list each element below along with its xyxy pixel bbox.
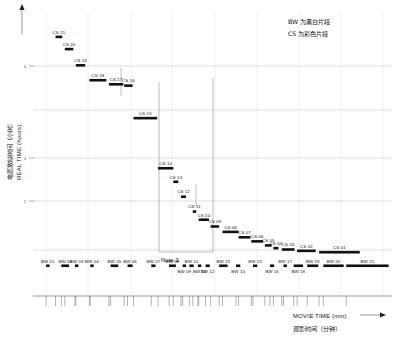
segment-marker: CS 03 xyxy=(282,242,295,251)
segment-bar xyxy=(222,231,238,234)
segment-label: BW 10 xyxy=(185,259,199,264)
segment-bar xyxy=(346,264,388,267)
segment-bar xyxy=(128,264,133,267)
segment-label: BW 14 xyxy=(231,269,245,274)
segment-label: CS 19 xyxy=(74,58,87,63)
segment-bar xyxy=(89,79,106,82)
segment-label: BW 09 xyxy=(177,269,191,274)
segment-marker: CS 18 xyxy=(89,73,106,82)
segment-bar xyxy=(76,64,85,67)
segment-label: CS 18 xyxy=(92,73,105,78)
segment-label: BW 16 xyxy=(265,269,279,274)
segment-bar xyxy=(90,264,93,267)
segment-label: CS 07 xyxy=(238,230,251,235)
legend-item-bw: BW 为黑白片段 xyxy=(288,18,330,26)
y-axis-label-en: REAL TIME (hours) xyxy=(16,125,22,180)
y-tick-label: 4 xyxy=(24,65,26,69)
note3-label: Note 3 xyxy=(161,257,179,263)
segment-marker: CS 14 xyxy=(158,161,173,170)
segment-bar xyxy=(239,236,251,239)
x-axis-label-cn: 观影时间（分钟） xyxy=(293,325,341,333)
segment-bar xyxy=(151,264,155,267)
segment-label: CS 20 xyxy=(63,42,76,47)
segment-label: BW 15 xyxy=(248,259,262,264)
segment-label: BW 05 xyxy=(108,259,122,264)
segment-marker: CS 08 xyxy=(222,225,238,234)
segment-bar xyxy=(61,264,69,267)
segment-bar xyxy=(206,264,210,267)
segment-bar xyxy=(181,195,186,198)
chart-background xyxy=(0,0,399,343)
segment-bar xyxy=(270,264,274,267)
segment-label: CS 04 xyxy=(270,241,283,246)
segment-label: CS 09 xyxy=(208,219,221,224)
movie-timeline-chart: 4 3 2 REAL TIME (hours) 电影放映时间（小时） BW 为黑… xyxy=(0,0,399,343)
segment-label: CS 03 xyxy=(282,242,295,247)
segment-label: BW 20 xyxy=(327,259,341,264)
segment-marker: CS 07 xyxy=(238,230,251,239)
segment-bar xyxy=(56,36,63,39)
segment-bar xyxy=(273,247,278,250)
segment-bar xyxy=(189,264,193,267)
segment-label: CS 21 xyxy=(53,30,66,35)
segment-bar xyxy=(198,264,201,267)
segment-label: CS 17 xyxy=(110,77,123,82)
segment-label: BW 13 xyxy=(216,259,230,264)
segment-bar xyxy=(319,251,360,254)
segment-label: CS 02 xyxy=(300,244,313,249)
x-axis-label-en: MOVIE TIME (min) xyxy=(293,313,347,319)
segment-label: BW 03 xyxy=(70,259,84,264)
segment-bar xyxy=(111,264,119,267)
segment-label: CS 11 xyxy=(188,204,201,209)
segment-bar xyxy=(323,264,343,267)
segment-label: BW 01 xyxy=(41,259,55,264)
y-tick-label: 2 xyxy=(24,200,26,204)
segment-bar xyxy=(158,167,173,170)
segment-label: CS 12 xyxy=(177,189,190,194)
segment-label: BW 04 xyxy=(85,259,99,264)
segment-bar xyxy=(253,264,257,267)
segment-bar xyxy=(282,248,295,251)
segment-label: BW 18 xyxy=(291,269,305,274)
legend-item-cs: CS 为彩色片段 xyxy=(288,30,328,38)
segment-bar xyxy=(236,264,240,267)
y-tick-label: 3 xyxy=(24,157,26,161)
segment-label: CS 14 xyxy=(159,161,172,166)
segment-label: CS 15 xyxy=(139,111,152,116)
segment-label: BW 21 xyxy=(361,259,375,264)
segment-bar xyxy=(133,117,157,120)
segment-bar xyxy=(124,84,132,87)
segment-label: CS 13 xyxy=(170,175,183,180)
segment-bar xyxy=(169,264,176,267)
segment-label: BW 17 xyxy=(278,259,292,264)
segment-bar xyxy=(284,264,287,267)
segment-label: CS 01 xyxy=(333,245,346,250)
segment-bar xyxy=(199,218,209,221)
segment-bar xyxy=(75,264,78,267)
segment-bar xyxy=(219,264,227,267)
segment-bar xyxy=(211,225,219,228)
segment-bar xyxy=(193,210,196,213)
segment-label: CS 10 xyxy=(197,213,210,218)
segment-bar xyxy=(65,48,73,51)
segment-label: BW 19 xyxy=(306,259,320,264)
segment-label: CS 16 xyxy=(122,78,135,83)
segment-label: BW 12 xyxy=(201,269,215,274)
y-axis-label-cn: 电影放映时间（小时） xyxy=(6,120,14,180)
segment-bar xyxy=(46,264,49,267)
segment-marker: BW 19 xyxy=(306,259,320,268)
segment-label: BW 07 xyxy=(147,259,161,264)
segment-bar xyxy=(294,264,303,267)
segment-bar xyxy=(297,250,316,253)
segment-bar xyxy=(183,264,186,267)
segment-bar xyxy=(173,180,178,183)
segment-label: BW 06 xyxy=(123,259,137,264)
segment-label: CS 08 xyxy=(224,225,237,230)
segment-bar xyxy=(307,264,318,267)
